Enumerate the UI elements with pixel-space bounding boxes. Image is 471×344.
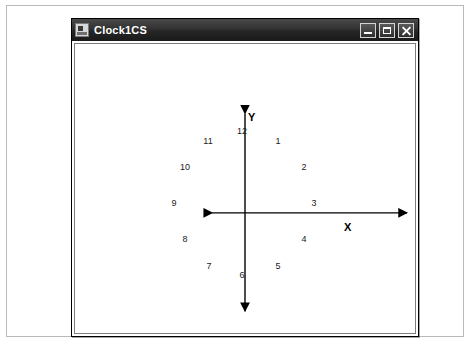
window-title: Clock1CS xyxy=(94,24,360,36)
maximize-button[interactable] xyxy=(379,23,395,38)
clock-number: 8 xyxy=(182,235,187,244)
x-axis-label: X xyxy=(344,222,351,233)
client-area: Y X 121234567891011 xyxy=(74,43,416,334)
clock-number: 5 xyxy=(275,262,280,271)
clock-plot xyxy=(75,44,415,333)
clock-number: 12 xyxy=(237,127,247,136)
application-icon xyxy=(75,23,89,37)
clock-number: 3 xyxy=(311,199,316,208)
application-window: Clock1CS xyxy=(71,18,419,337)
clock-number: 7 xyxy=(206,262,211,271)
minimize-button[interactable] xyxy=(360,23,376,38)
clock-number: 2 xyxy=(301,163,306,172)
clock-number: 4 xyxy=(301,235,306,244)
y-axis-label: Y xyxy=(248,112,255,123)
clock-number: 6 xyxy=(239,271,244,280)
title-bar[interactable]: Clock1CS xyxy=(72,19,418,41)
window-controls xyxy=(360,23,416,38)
document-frame: Clock1CS xyxy=(6,5,464,337)
clock-number: 1 xyxy=(275,137,280,146)
clock-number: 11 xyxy=(203,137,212,146)
clock-number: 10 xyxy=(180,163,190,172)
close-button[interactable] xyxy=(398,23,414,38)
clock-number: 9 xyxy=(171,199,176,208)
